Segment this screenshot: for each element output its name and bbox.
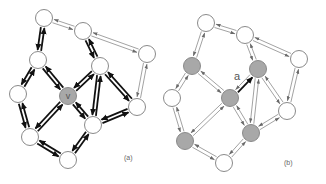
edge-arrow-n4-to-n1 xyxy=(41,28,44,51)
edge-arrow-n3-to-n7 xyxy=(287,68,295,101)
node-n9 xyxy=(85,117,102,134)
edge-arrow-n2-to-n1 xyxy=(216,24,236,30)
node-n3 xyxy=(291,51,308,68)
node-n8 xyxy=(22,129,39,146)
node-n10 xyxy=(60,152,77,169)
node-n9 xyxy=(243,125,260,142)
edge-arrow-n7-to-n5 xyxy=(108,72,132,99)
node-v-label: v xyxy=(66,91,71,101)
edge-arrow-n5-to-n7 xyxy=(105,74,129,101)
edge-arrow-n1-to-n4 xyxy=(38,27,41,50)
node-n7 xyxy=(279,103,296,120)
edge-arrow-n8-to-v xyxy=(38,105,63,132)
edge-arrow-n3-to-n7 xyxy=(137,63,143,97)
node-n1 xyxy=(198,15,215,32)
edge-arrow-n4-to-v xyxy=(43,68,61,89)
edge-arrow-n7-to-n3 xyxy=(141,64,147,98)
edge-arrow-n8-to-n6 xyxy=(177,107,184,131)
edge-arrow-n7-to-n5 xyxy=(265,76,283,102)
graph-figure: v (a) a (b) xyxy=(0,0,326,184)
node-n5 xyxy=(92,58,109,75)
node-n4 xyxy=(184,58,201,75)
node-n2 xyxy=(75,23,92,40)
panel-a-nodes: v xyxy=(10,10,156,169)
edge-arrow-n6-to-n4 xyxy=(179,75,189,90)
edge-arrow-v-to-n8 xyxy=(191,103,222,133)
node-n10 xyxy=(216,155,233,172)
node-n6 xyxy=(164,90,181,107)
edge-arrow-n8-to-n6 xyxy=(22,103,29,127)
edge-arrow-v-to-n4 xyxy=(201,71,224,90)
edge-arrow-n8-to-v xyxy=(193,106,224,136)
edge-arrow-n4-to-v xyxy=(198,73,221,92)
edge-arrow-v-to-n4 xyxy=(46,67,64,88)
edge-arrow-n1-to-n4 xyxy=(193,31,201,55)
edge-arrow-v-to-n8 xyxy=(35,102,60,129)
node-n7 xyxy=(129,99,146,116)
edge-arrow-n2-to-n1 xyxy=(54,19,75,26)
edge-arrow-n5-to-n2 xyxy=(89,39,97,56)
edge-arrow-n1-to-n2 xyxy=(215,28,235,34)
edge-arrow-n2-to-n5 xyxy=(86,40,94,57)
node-v xyxy=(222,90,239,107)
panel-a-caption: (a) xyxy=(124,154,133,162)
edge-arrow-n6-to-n8 xyxy=(19,104,26,128)
edge-arrow-n6-to-n8 xyxy=(173,108,180,132)
edge-arrow-n2-to-n3 xyxy=(253,41,289,57)
panel-a: v (a) xyxy=(10,10,156,169)
edge-arrow-n7-to-n3 xyxy=(291,69,299,102)
node-n8 xyxy=(177,133,194,150)
edge-arrow-n1-to-n2 xyxy=(52,23,73,30)
node-n1 xyxy=(36,10,53,27)
node-n3 xyxy=(139,46,156,63)
edge-arrow-n3-to-n2 xyxy=(93,33,139,49)
edge-arrow-n3-to-n2 xyxy=(255,37,291,53)
node-n6 xyxy=(10,86,27,103)
edge-a-label: a xyxy=(234,70,241,82)
edge-arrow-n5-to-n7 xyxy=(262,78,280,104)
edge-arrow-n2-to-n3 xyxy=(91,36,137,52)
node-n2 xyxy=(237,27,254,44)
panel-b-caption: (b) xyxy=(284,159,293,167)
panel-b: a (b) xyxy=(164,15,308,172)
node-n5 xyxy=(250,61,267,78)
edge-arrow-n4-to-n6 xyxy=(176,73,186,88)
edge-arrow-n4-to-n1 xyxy=(197,33,205,57)
node-n4 xyxy=(30,52,47,69)
